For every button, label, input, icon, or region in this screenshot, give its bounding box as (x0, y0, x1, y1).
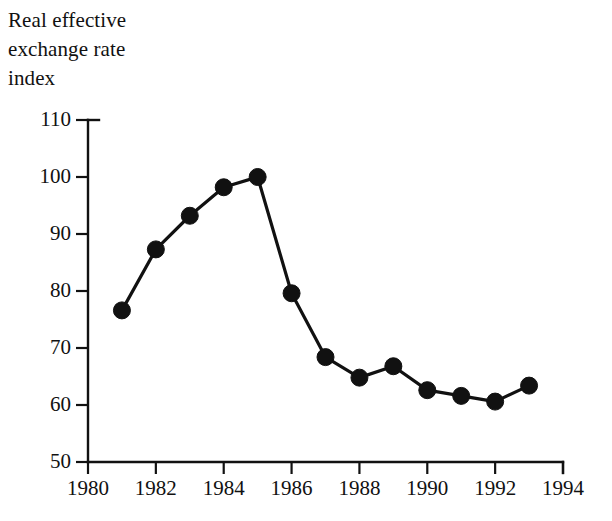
y-tick-label: 60 (50, 392, 71, 416)
y-tick-label: 100 (40, 164, 72, 188)
series-markers (113, 169, 537, 411)
data-point-marker (181, 207, 198, 224)
x-tick-label: 1986 (271, 476, 313, 500)
x-tick-label: 1982 (135, 476, 177, 500)
x-tick-label: 1994 (542, 476, 585, 500)
data-point-marker (249, 169, 266, 186)
y-tick-label: 110 (40, 107, 71, 131)
x-tick-label: 1992 (474, 476, 516, 500)
x-tick-label: 1988 (338, 476, 380, 500)
data-point-marker (215, 179, 232, 196)
data-point-marker (419, 382, 436, 399)
data-point-marker (521, 377, 538, 394)
data-point-marker (351, 369, 368, 386)
data-point-marker (113, 302, 130, 319)
axes-group (88, 120, 563, 473)
x-axis-ticks: 19801982198419861988199019921994 (67, 462, 585, 500)
data-point-marker (283, 285, 300, 302)
x-tick-label: 1990 (406, 476, 448, 500)
x-tick-label: 1984 (203, 476, 246, 500)
y-tick-label: 80 (50, 278, 71, 302)
data-point-marker (453, 387, 470, 404)
y-axis-ticks: 5060708090100110 (40, 107, 89, 473)
x-tick-label: 1980 (67, 476, 109, 500)
data-point-marker (487, 393, 504, 410)
data-point-marker (147, 241, 164, 258)
chart-plot-area: 5060708090100110 19801982198419861988199… (0, 0, 612, 521)
y-tick-label: 90 (50, 221, 71, 245)
y-tick-label: 50 (50, 449, 71, 473)
y-tick-label: 70 (50, 335, 71, 359)
chart-figure: Real effective exchange rate index 50607… (0, 0, 612, 521)
data-point-marker (317, 349, 334, 366)
data-point-marker (385, 358, 402, 375)
